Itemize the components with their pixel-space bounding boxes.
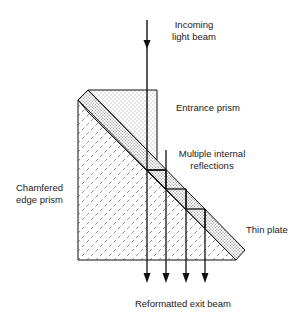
label-reformatted-exit-beam: Reformatted exit beam xyxy=(118,298,248,310)
label-line: reflections xyxy=(172,160,252,172)
label-line: Multiple internal xyxy=(172,148,252,160)
incoming-arrowhead xyxy=(144,40,151,49)
label-thin-plate: Thin plate xyxy=(246,224,288,236)
label-entrance-prism: Entrance prism xyxy=(176,102,240,114)
exit-arrowheads xyxy=(144,273,209,283)
beam-reformatter-diagram xyxy=(0,0,308,321)
label-line: Incoming xyxy=(158,19,230,31)
label-line: edge prism xyxy=(16,194,63,206)
label-chamfered-edge-prism: Chamfered edge prism xyxy=(16,182,63,206)
label-line: Chamfered xyxy=(16,182,63,194)
label-incoming-light-beam: Incoming light beam xyxy=(158,19,230,43)
label-multiple-internal-reflections: Multiple internal reflections xyxy=(172,148,252,172)
label-line: light beam xyxy=(158,31,230,43)
